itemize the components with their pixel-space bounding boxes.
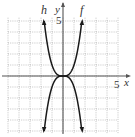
axes: [2, 2, 131, 134]
graph-plot: [0, 0, 135, 137]
curve-label-f: f: [80, 4, 83, 16]
curve-label-h: h: [41, 4, 47, 16]
x-axis-label: x: [124, 77, 129, 88]
x-tick-label: 5: [114, 79, 120, 90]
y-tick-label: 5: [56, 15, 62, 26]
